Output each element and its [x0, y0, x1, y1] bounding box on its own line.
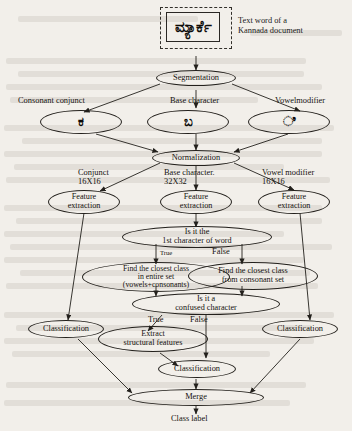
label-base-character: Base character — [170, 96, 219, 105]
node-classification-center[interactable]: Classification — [158, 360, 236, 378]
node-merge[interactable]: Merge — [128, 389, 264, 406]
node-is-first-character[interactable]: Is it the 1st character of word — [122, 226, 272, 248]
branch-label-first-char-true: True — [160, 249, 172, 256]
node-feature-extraction-left[interactable]: Feature extraction — [48, 190, 120, 214]
node-classification-right[interactable]: Classification — [262, 320, 338, 338]
branch-label-confused-true: True — [148, 315, 164, 324]
glyph-consonant-conjunct: ಕ — [78, 115, 84, 129]
segment-base-character[interactable]: ಬ — [147, 110, 229, 134]
node-normalization[interactable]: Normalization — [152, 150, 240, 166]
segment-vowel-modifier[interactable]: ಿ — [248, 110, 330, 134]
node-classification-left[interactable]: Classification — [28, 320, 104, 338]
node-find-closest-class-consonant[interactable]: Find the closest class from consonant se… — [188, 262, 318, 290]
glyph-vowel-modifier: ಿ — [283, 115, 295, 129]
node-segmentation[interactable]: Segmentation — [156, 70, 236, 86]
input-word-caption: Text word of a Kannada document — [238, 16, 303, 36]
label-vowel-size: Vowel modifier 16X16 — [262, 168, 314, 186]
node-extract-structural-features[interactable]: Extract structural features — [98, 326, 208, 352]
branch-label-first-char-false: False — [212, 247, 230, 256]
label-vowel-modifier: Vowelmodifier — [275, 96, 325, 105]
branch-label-confused-false: False — [190, 315, 208, 324]
label-base-size: Base character. 32X32 — [164, 168, 215, 186]
label-consonant-conjunct: Consonant conjunct — [18, 96, 85, 105]
flowchart-page: ಮ್ಯಾರ್ಕೆ Text word of a Kannada document… — [0, 0, 352, 431]
label-conjunct-size: Conjunct 16X16 — [78, 168, 109, 186]
label-class-label: Class label — [171, 414, 208, 423]
node-is-confused-character[interactable]: Is it a confused character — [132, 293, 280, 315]
input-word-text: ಮ್ಯಾರ್ಕೆ — [175, 19, 212, 36]
node-feature-extraction-center[interactable]: Feature extraction — [160, 190, 232, 214]
glyph-base-character: ಬ — [184, 115, 193, 129]
segment-consonant-conjunct[interactable]: ಕ — [40, 110, 122, 134]
input-word-box: ಮ್ಯಾರ್ಕೆ — [166, 12, 220, 42]
node-feature-extraction-right[interactable]: Feature extraction — [258, 190, 330, 214]
